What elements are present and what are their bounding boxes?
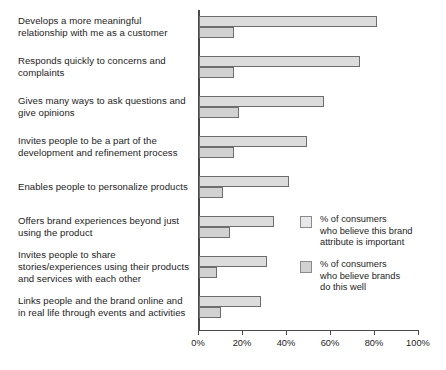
bar-do-this-well [199, 227, 230, 238]
legend-label: % of consumers who believe this brand at… [320, 214, 442, 249]
category-label-line: Gives many ways to ask questions and [18, 95, 196, 107]
category-label-line: stories/experiences using their products [18, 261, 196, 273]
category-label-line: in real life through events and activiti… [18, 307, 196, 319]
bar-important [199, 16, 377, 27]
category-label: Links people and the brand online andin … [18, 295, 196, 319]
bar-important [199, 96, 324, 107]
x-axis-tick-label: 100% [406, 338, 430, 348]
category-label-line: using the product [18, 227, 196, 239]
legend-entry[interactable]: % of consumers who believe brands do thi… [300, 259, 442, 295]
category-label-line: and services with each other [18, 273, 196, 285]
x-axis-tick [286, 330, 287, 335]
x-axis-tick [418, 330, 419, 335]
category-label-line: Enables people to personalize products [18, 181, 196, 193]
x-axis-tick-label: 0% [191, 338, 204, 348]
chart-legend: % of consumers who believe this brand at… [300, 214, 442, 304]
category-label: Invites people to be a part of thedevelo… [18, 135, 196, 159]
legend-entry[interactable]: % of consumers who believe this brand at… [300, 214, 442, 250]
bar-do-this-well [199, 187, 223, 198]
x-axis-tick [330, 330, 331, 335]
bar-do-this-well [199, 267, 217, 278]
bar-do-this-well [199, 107, 239, 118]
bar-do-this-well [199, 307, 221, 318]
x-axis-tick [242, 330, 243, 335]
bar-important [199, 56, 360, 67]
bar-important [199, 216, 274, 227]
category-label: Responds quickly to concerns andcomplain… [18, 55, 196, 79]
category-label-line: development and refinement process [18, 147, 196, 159]
bar-important [199, 176, 289, 187]
survey-bar-chart: Develops a more meaningfulrelationship w… [0, 0, 446, 370]
category-label: Develops a more meaningfulrelationship w… [18, 15, 196, 39]
x-axis-tick-label: 60% [321, 338, 340, 348]
category-label-line: Invites people to be a part of the [18, 135, 196, 147]
legend-label: % of consumers who believe brands do thi… [320, 259, 442, 294]
bar-do-this-well [199, 27, 234, 38]
x-axis-line [198, 330, 418, 331]
bar-do-this-well [199, 147, 234, 158]
category-label-line: relationship with me as a customer [18, 27, 196, 39]
category-label-line: Invites people to share [18, 249, 196, 261]
bar-do-this-well [199, 67, 234, 78]
category-label-line: give opinions [18, 107, 196, 119]
category-label: Enables people to personalize products [18, 181, 196, 193]
legend-swatch-dothiswell [300, 261, 312, 273]
category-label: Offers brand experiences beyond justusin… [18, 215, 196, 239]
x-axis-tick-label: 80% [365, 338, 384, 348]
category-label: Gives many ways to ask questions andgive… [18, 95, 196, 119]
category-label-line: Develops a more meaningful [18, 15, 196, 27]
legend-swatch-important [300, 216, 312, 228]
x-axis-tick-label: 40% [277, 338, 296, 348]
category-label-line: complaints [18, 67, 196, 79]
x-axis-tick [198, 330, 199, 335]
x-axis-tick-label: 20% [233, 338, 252, 348]
category-label-line: Responds quickly to concerns and [18, 55, 196, 67]
category-label-column: Develops a more meaningfulrelationship w… [0, 0, 196, 330]
bar-important [199, 256, 267, 267]
category-label-line: Offers brand experiences beyond just [18, 215, 196, 227]
bar-important [199, 296, 261, 307]
category-label-line: Links people and the brand online and [18, 295, 196, 307]
category-label: Invites people to sharestories/experienc… [18, 249, 196, 286]
bar-important [199, 136, 307, 147]
x-axis-tick [374, 330, 375, 335]
